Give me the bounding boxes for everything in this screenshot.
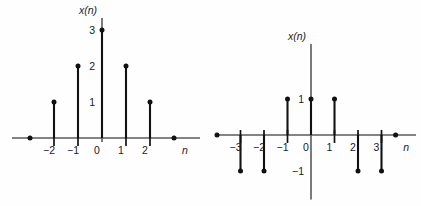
left-stem-plot-x-tick-label: 2: [142, 144, 148, 156]
right-stem-plot-signal-label: x(n): [287, 30, 306, 42]
right-stem-plot-x-tick-label: 1: [327, 141, 333, 153]
left-stem-plot-y-tick-label: 1: [89, 96, 95, 108]
right-stem-plot-sample-dot-nneg3: [238, 169, 243, 174]
right-stem-plot-sample-dot-nneg1: [285, 97, 290, 102]
left-stem-plot-x-tick-label: −1: [67, 144, 79, 156]
left-stem-plot-sample-dot-n0: [100, 28, 105, 33]
right-stem-plot-x-tick-label: −2: [253, 141, 265, 153]
left-stem-plot-x-tick-label: 0: [94, 144, 100, 156]
right-stem-plot-sample-dot-n1: [332, 97, 337, 102]
left-stem-plot-sample-dot-n1: [124, 64, 129, 69]
right-stem-plot-sample-dot-n3: [379, 169, 384, 174]
right-stem-plot-sample-dot-n2: [356, 169, 361, 174]
right-stem-plot-x-tick-label: −1: [277, 141, 289, 153]
right-stem-plot-x-tick-label: 2: [350, 141, 356, 153]
right-stem-plot-zero-sample-dot: [393, 133, 398, 138]
right-stem-plot-y-tick-label: −1: [292, 165, 304, 177]
left-stem-plot-x-axis-label: n: [182, 144, 188, 156]
left-stem-plot-x-tick-label: 1: [118, 144, 124, 156]
right-stem-plot-sample-dot-nneg2: [262, 169, 267, 174]
left-stem-plot-x-tick-label: −2: [43, 144, 55, 156]
left-stem-plot-zero-sample-dot: [172, 136, 177, 141]
left-stem-plot-y-tick-label: 2: [89, 60, 95, 72]
right-stem-plot-x-tick-label: 0: [303, 141, 309, 153]
right-stem-plot-x-tick-label: −3: [230, 141, 242, 153]
left-stem-plot-signal-label: x(n): [78, 4, 97, 16]
plot-canvas: 123x(n)−2−1012n1−1x(n)−3−2−10123n: [0, 0, 421, 206]
right-stem-plot-sample-dot-n0: [309, 97, 314, 102]
left-stem-plot-sample-dot-nneg2: [52, 100, 57, 105]
right-stem-plot-y-tick-label: 1: [298, 93, 304, 105]
right-stem-plot-zero-sample-dot: [215, 133, 220, 138]
left-stem-plot-sample-dot-n2: [148, 100, 153, 105]
right-stem-plot-x-tick-label: 3: [374, 141, 380, 153]
right-stem-plot-x-axis-label: n: [403, 141, 409, 153]
left-stem-plot-zero-sample-dot: [28, 136, 33, 141]
stem-plot-figure: 123x(n)−2−1012n1−1x(n)−3−2−10123n: [0, 0, 421, 206]
left-stem-plot-y-tick-label: 3: [89, 24, 95, 36]
left-stem-plot-sample-dot-nneg1: [76, 64, 81, 69]
